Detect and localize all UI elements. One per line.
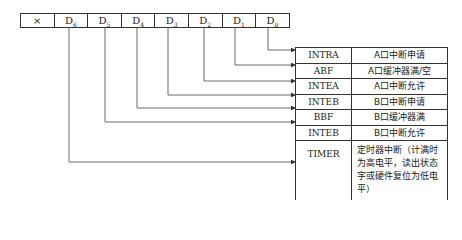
table-row: INTEBB口中断申请 xyxy=(296,95,447,111)
signal-description: A口中断申请 xyxy=(352,48,447,63)
table-row: TIMER定时器中断（计满时为高电平，读出状态字或硬件复位为低电平） xyxy=(296,141,447,200)
signal-name: INTEB xyxy=(296,95,352,110)
signal-description: B口缓冲器满 xyxy=(352,110,447,125)
signal-name: INTEA xyxy=(296,79,352,94)
signal-description: B口中断申请 xyxy=(352,95,447,110)
signal-description: A口缓冲器满/空 xyxy=(352,64,447,79)
status-bit-table: INTRAA口中断申请 ABFA口缓冲器满/空 INTEAA口中断允许 INTE… xyxy=(295,47,448,200)
table-row: BBFB口缓冲器满 xyxy=(296,110,447,126)
table-row: INTEAA口中断允许 xyxy=(296,79,447,95)
table-row: ABFA口缓冲器满/空 xyxy=(296,64,447,80)
signal-name: INTRA xyxy=(296,48,352,63)
signal-description: A口中断允许 xyxy=(352,79,447,94)
table-row: INTRAA口中断申请 xyxy=(296,48,447,64)
signal-name: BBF xyxy=(296,110,352,125)
signal-name: ABF xyxy=(296,64,352,79)
signal-description: B口中断允许 xyxy=(352,126,447,141)
signal-name: TIMER xyxy=(296,141,352,200)
signal-description: 定时器中断（计满时为高电平，读出状态字或硬件复位为低电平） xyxy=(352,141,447,200)
table-row: INTEBB口中断允许 xyxy=(296,126,447,142)
signal-name: INTEB xyxy=(296,126,352,141)
